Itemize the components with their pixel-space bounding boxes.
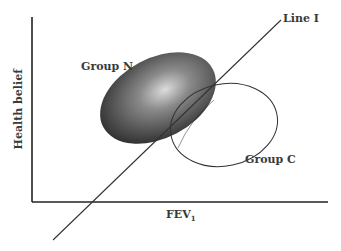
x-axis-label-subscript: 1 <box>191 214 196 223</box>
group-c-label: Group C <box>245 153 296 166</box>
group-n-label: Group N <box>81 60 133 73</box>
y-axis-label: Health belief <box>12 70 25 150</box>
line-i <box>53 20 281 240</box>
x-axis-label-text: FEV <box>166 208 191 221</box>
group-n-ellipse <box>84 34 231 163</box>
x-axis-label: FEV1 <box>166 208 196 223</box>
line-i-label: Line I <box>283 12 319 25</box>
